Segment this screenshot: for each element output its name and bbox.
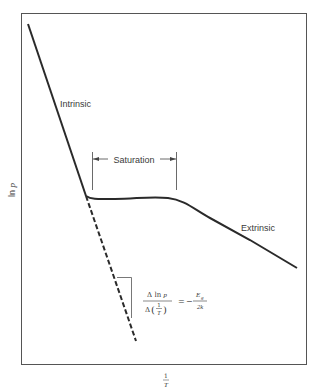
slope-triangle [117,278,132,319]
svg-text:): ) [163,304,167,315]
svg-text:(: ( [151,304,155,315]
formula-rhs-denominator: 2k [197,303,203,310]
formula-rhs-numerator-sub: g [201,295,204,300]
formula-minus: − [186,297,193,306]
intrinsic-line [28,24,86,196]
x-axis-label: 1 T [163,372,169,389]
extrinsic-label: Extrinsic [241,223,276,233]
formula-lhs-denominator-delta: Δ [145,306,150,314]
x-axis-label-numerator: 1 [164,372,168,379]
left-arrowhead-icon [93,157,99,161]
svg-text:ln p: ln p [7,182,17,197]
formula-lhs-denominator-frac-num: 1 [157,302,161,308]
saturation-label: Saturation [113,155,154,165]
intrinsic-extrapolation-dashed-line [86,196,136,341]
right-arrowhead-icon [170,157,176,161]
formula-equals: = [178,297,185,306]
slope-formula: Δ ln p Δ ( 1 T ) = − E g 2k [143,291,207,316]
x-axis-label-denominator: T [164,381,169,389]
formula-lhs-numerator-var: p [162,291,167,299]
y-axis-label-prefix: ln [7,187,17,197]
semiconductor-lnp-vs-inverse-T-diagram: Intrinsic Extrinsic Saturation Δ ln p Δ … [0,0,316,390]
svg-text:Δ ln p: Δ ln p [147,291,167,299]
y-axis-label: ln p [7,182,17,197]
intrinsic-label: Intrinsic [60,99,92,109]
formula-lhs-numerator-delta: Δ ln [147,291,163,299]
y-axis-label-var: p [7,182,17,188]
formula-lhs-denominator-frac-den: T [157,310,161,316]
